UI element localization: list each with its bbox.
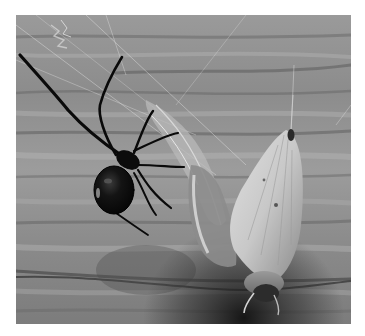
photo-spider-and-moth: A black spider hanging in a web beside a… [16, 15, 351, 324]
image-canvas: A black spider hanging in a web beside a… [0, 0, 365, 336]
